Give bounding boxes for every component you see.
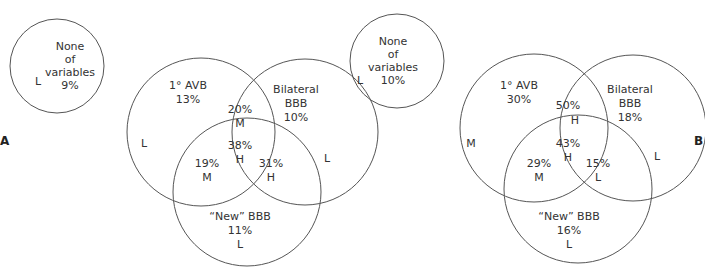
b-none-line1: None bbox=[379, 35, 408, 48]
b-bilateral-pct: 18% bbox=[618, 111, 642, 124]
b-none-pct: 10% bbox=[381, 74, 405, 87]
b-newbbb-pct: 16% bbox=[557, 224, 581, 237]
b-bilateral-new-pct: 15% bbox=[586, 157, 610, 170]
panel-label-a: A bbox=[0, 134, 9, 148]
a-avb-bilateral-pct: 20% bbox=[228, 103, 252, 116]
a-all-three-pct: 38% bbox=[228, 139, 252, 152]
b-avb-new-level: M bbox=[534, 171, 544, 184]
b-none-line2: of bbox=[388, 48, 399, 61]
a-newbbb-pct: 11% bbox=[228, 224, 252, 237]
b-bilateral-name2: BBB bbox=[619, 97, 642, 110]
a-avb-new-pct: 19% bbox=[195, 157, 219, 170]
b-bilateral-name1: Bilateral bbox=[607, 83, 653, 96]
a-none-line3: variables bbox=[45, 66, 95, 79]
b-none-level: L bbox=[357, 74, 363, 87]
a-none-line2: of bbox=[65, 53, 76, 66]
a-avb-level: L bbox=[141, 137, 147, 150]
a-avb-new-level: M bbox=[202, 171, 212, 184]
b-all-three-level: H bbox=[564, 151, 572, 164]
b-all-three-pct: 43% bbox=[556, 137, 580, 150]
a-avb-bilateral-level: M bbox=[235, 117, 245, 130]
b-bilateral-new-level: L bbox=[595, 171, 601, 184]
a-avb-pct: 13% bbox=[176, 93, 200, 106]
a-bilateral-new-pct: 31% bbox=[259, 157, 283, 170]
a-bilateral-pct: 10% bbox=[284, 111, 308, 124]
a-bilateral-name2: BBB bbox=[285, 97, 308, 110]
a-bilateral-level: L bbox=[324, 152, 330, 165]
b-avb-new-pct: 29% bbox=[527, 157, 551, 170]
circle-b-bilateral bbox=[560, 55, 705, 201]
a-none-line1: None bbox=[56, 40, 85, 53]
a-newbbb-name: “New” BBB bbox=[209, 210, 271, 223]
b-newbbb-level: L bbox=[566, 238, 572, 251]
b-newbbb-name: “New” BBB bbox=[538, 210, 600, 223]
b-avb-bilateral-level: H bbox=[571, 114, 579, 127]
b-avb-name: 1° AVB bbox=[500, 79, 538, 92]
a-avb-name: 1° AVB bbox=[169, 79, 207, 92]
a-bilateral-new-level: H bbox=[267, 171, 275, 184]
b-none-line3: variables bbox=[368, 61, 418, 74]
venn-circles bbox=[0, 0, 705, 275]
panel-label-b: B bbox=[694, 134, 703, 148]
a-all-three-level: H bbox=[236, 153, 244, 166]
a-none-level: L bbox=[35, 75, 41, 88]
b-avb-pct: 30% bbox=[507, 93, 531, 106]
a-none-pct: 9% bbox=[61, 79, 78, 92]
b-avb-bilateral-pct: 50% bbox=[556, 99, 580, 112]
a-newbbb-level: L bbox=[237, 238, 243, 251]
b-bilateral-level: L bbox=[654, 150, 660, 163]
a-bilateral-name1: Bilateral bbox=[273, 83, 319, 96]
b-avb-level: M bbox=[466, 137, 476, 150]
